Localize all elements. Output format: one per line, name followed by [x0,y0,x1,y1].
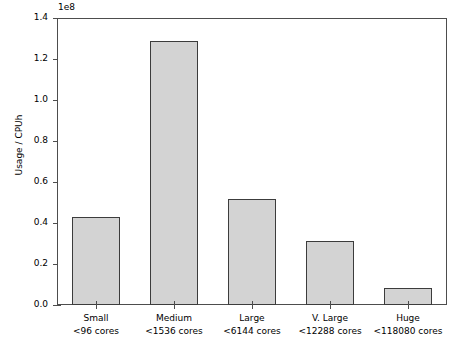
x-tick-mark-outer [408,305,409,309]
x-tick-mark-outer [330,305,331,309]
y-tick-label: 0.8 [34,135,48,145]
y-tick-label: 0.0 [34,299,48,309]
y-axis-offset-text: 1e8 [58,2,75,12]
bar-small [72,217,120,305]
x-tick-cores: <118080 cores [348,325,460,338]
y-tick-label: 1.2 [34,53,48,63]
y-tick-label: 1.4 [34,12,48,22]
bar-large [228,199,276,305]
y-axis-title: Usage / CPUh [14,85,24,205]
bars-layer [57,18,447,305]
x-tick-mark-outer [96,305,97,309]
bar-v-large [306,241,354,305]
bar-medium [150,41,198,305]
y-tick-mark-inner [57,305,61,306]
y-tick-label: 1.0 [34,94,48,104]
y-tick-label: 0.4 [34,217,48,227]
y-tick-label: 0.2 [34,258,48,268]
x-tick-label: Huge<118080 cores [348,312,460,338]
y-tick-label: 0.6 [34,176,48,186]
x-tick-mark-outer [252,305,253,309]
x-tick-mark-outer [174,305,175,309]
bar-chart-figure: 1e8 Usage / CPUh 1.41.21.00.80.60.40.20.… [0,0,460,338]
x-tick-category: Huge [348,312,460,325]
